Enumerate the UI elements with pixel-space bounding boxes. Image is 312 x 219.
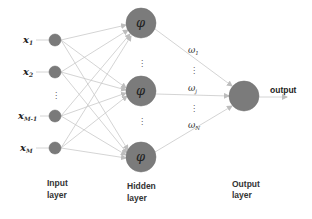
input-label-x1: x1 <box>22 34 33 46</box>
weight-ellipsis-1: ⋮ <box>190 66 198 75</box>
input-label-x2: x2 <box>22 66 33 78</box>
hidden-layer-label-line1: Hidden <box>127 181 156 191</box>
input-layer-label-line1: Input <box>47 178 68 188</box>
hidden-ellipsis-2: ⋮ <box>138 117 146 126</box>
input-node-2 <box>49 66 61 78</box>
output-layer-label-line1: Output <box>232 179 260 189</box>
hidden-node-n-phi: φ <box>136 149 146 164</box>
input-node-m <box>49 142 61 154</box>
input-node-1 <box>49 34 61 46</box>
output-layer-label-line2: layer <box>232 190 253 200</box>
neural-network-diagram: x1 x2 xM-1 xM ⋮ φ φ φ ⋮ ⋮ ω1 ⋮ ωj ⋮ ωN o… <box>0 0 312 219</box>
input-node-m-minus-1 <box>49 110 61 122</box>
input-label-xm-1: xM-1 <box>17 110 37 122</box>
input-layer-label-line2: layer <box>47 190 68 200</box>
weight-ellipsis-2: ⋮ <box>190 104 198 113</box>
input-feed-lines <box>36 40 49 148</box>
output-label: output <box>270 85 297 95</box>
weight-label-n: ωN <box>188 120 200 131</box>
weight-label-j: ωj <box>188 83 197 95</box>
weight-label-1: ω1 <box>188 45 199 56</box>
hidden-ellipsis-1: ⋮ <box>138 59 146 68</box>
input-hidden-edges <box>61 25 131 158</box>
input-ellipsis: ⋮ <box>52 91 60 100</box>
output-node <box>229 81 259 111</box>
hidden-node-1-phi: φ <box>136 15 146 30</box>
hidden-layer-label-line2: layer <box>127 193 148 203</box>
hidden-node-j-phi: φ <box>136 83 146 98</box>
input-label-xm: xM <box>19 142 33 154</box>
